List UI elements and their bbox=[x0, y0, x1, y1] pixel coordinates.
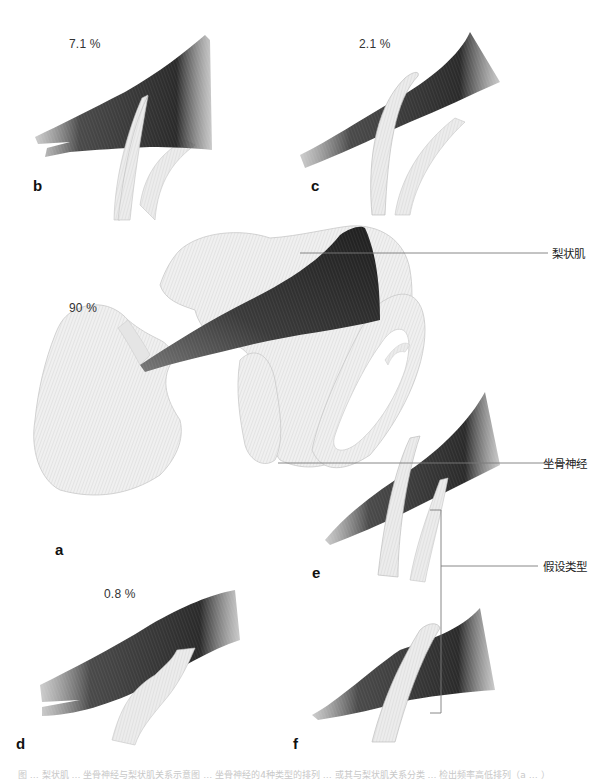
panel-d-letter: d bbox=[16, 735, 25, 752]
panel-b-letter: b bbox=[33, 177, 42, 194]
panel-a-letter: a bbox=[55, 541, 63, 558]
panel-a-illustration bbox=[34, 226, 425, 495]
panel-e-letter: e bbox=[312, 564, 320, 581]
sciatic-nerve-label: 坐骨神经 bbox=[543, 455, 587, 471]
panel-b-illustration bbox=[35, 35, 212, 220]
illustration-canvas bbox=[0, 0, 615, 780]
hypothetical-types-label: 假设类型 bbox=[543, 558, 587, 574]
panel-c-letter: c bbox=[311, 177, 319, 194]
panel-d-illustration bbox=[40, 590, 240, 745]
panel-d-percentage: 0.8 % bbox=[104, 587, 136, 601]
panel-c-percentage: 2.1 % bbox=[359, 37, 391, 51]
anatomy-figure: 7.1 % 2.1 % 90 % 0.8 % b c a e d f 梨状肌 坐… bbox=[0, 0, 615, 780]
piriformis-label: 梨状肌 bbox=[552, 245, 585, 261]
panel-f-letter: f bbox=[293, 735, 298, 752]
figure-caption: 图 … 梨状肌 … 坐骨神经与梨状肌关系示意图 … 坐骨神经的4种类型的排列 …… bbox=[18, 768, 613, 780]
panel-f-illustration bbox=[312, 608, 495, 742]
panel-a-percentage: 90 % bbox=[69, 301, 97, 315]
panel-b-percentage: 7.1 % bbox=[69, 37, 101, 51]
panel-c-illustration bbox=[300, 32, 500, 215]
